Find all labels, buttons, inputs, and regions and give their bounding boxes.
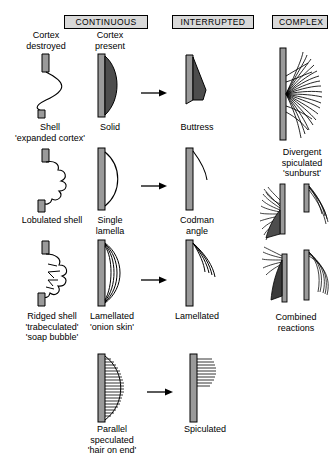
figure-parallel-speculated xyxy=(88,352,140,424)
caption-sunburst: Divergent spiculated 'sunburst' xyxy=(267,147,333,179)
diagram-canvas: CONTINUOUS INTERRUPTED COMPLEX Cortex de… xyxy=(0,0,333,465)
arrow-solid-to-buttress xyxy=(140,85,168,103)
arrow-onionskin-to-lamellated xyxy=(140,272,168,290)
figure-solid xyxy=(88,52,134,120)
caption-solid: Solid xyxy=(80,122,140,133)
figure-lamellated-onion-skin xyxy=(88,238,136,308)
figure-shell xyxy=(24,52,76,120)
figure-combined-reactions xyxy=(258,180,333,310)
figure-buttress xyxy=(176,52,216,114)
figure-spiculated xyxy=(180,352,230,424)
caption-lamellated: Lamellated xyxy=(162,311,232,322)
figure-lobulated-shell xyxy=(24,148,78,214)
arrow-lamella-to-codman xyxy=(140,178,168,196)
figure-sunburst xyxy=(272,46,330,144)
figure-codman-angle xyxy=(176,146,220,212)
figure-ridged-shell xyxy=(24,240,80,310)
caption-buttress: Buttress xyxy=(164,122,230,133)
figure-lamellated xyxy=(176,238,224,308)
caption-parallel-speculated: Parallel speculated 'hair on end' xyxy=(70,424,154,456)
column-header-complex: COMPLEX xyxy=(272,15,328,29)
column-header-continuous: CONTINUOUS xyxy=(64,15,148,29)
column-header-interrupted: INTERRUPTED xyxy=(172,15,254,29)
caption-single-lamella: Single lamella xyxy=(80,215,140,236)
caption-combined-reactions: Combined reactions xyxy=(260,312,332,333)
figure-single-lamella xyxy=(88,146,134,212)
caption-spiculated: Spiculated xyxy=(169,424,241,435)
caption-codman-angle: Codman angle xyxy=(166,215,228,236)
caption-lamellated-onion-skin: Lamellated 'onion skin' xyxy=(76,311,148,332)
subheader-cortex-present: Cortex present xyxy=(70,30,150,51)
arrow-parallel-to-spiculated xyxy=(146,384,174,402)
